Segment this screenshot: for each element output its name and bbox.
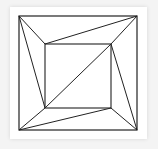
connector-line [19,108,111,130]
connector-line [45,16,137,44]
connector-lines [19,16,137,130]
nested-squares-diagram [0,0,158,149]
connector-line [111,44,137,130]
connector-line [45,44,111,108]
connector-line [111,108,137,130]
